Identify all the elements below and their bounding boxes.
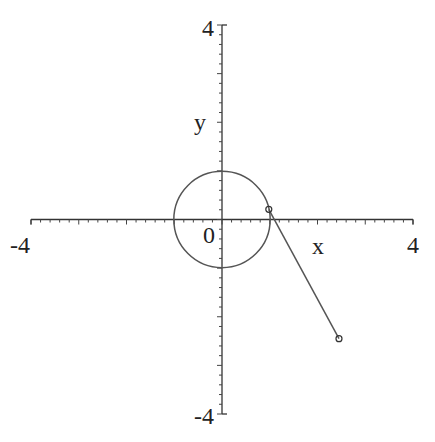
y-min-tick-label: -4 [194, 403, 214, 429]
y-axis-label: y [194, 109, 206, 135]
x-min-tick-label: -4 [10, 232, 30, 258]
line-segment [269, 209, 339, 338]
axis-ticks [31, 25, 413, 414]
x-axis-label: x [312, 233, 324, 259]
plot-canvas: 4 -4 -4 4 0 y x [0, 0, 435, 442]
y-max-tick-label: 4 [202, 15, 214, 41]
x-max-tick-label: 4 [407, 232, 419, 258]
origin-label: 0 [203, 222, 215, 248]
